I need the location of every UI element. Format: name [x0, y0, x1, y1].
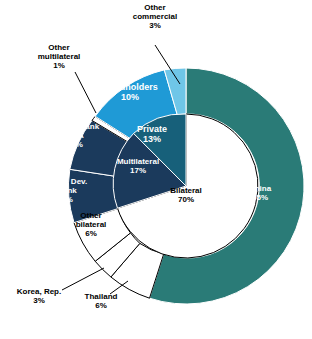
- label-private: Private 13%: [126, 124, 178, 144]
- label-multilateral: Multilateral 17%: [102, 158, 174, 176]
- pie-chart: Other commercial 3% Other multilateral 1…: [0, 0, 312, 339]
- label-other-multilateral: Other multilateral 1%: [26, 44, 92, 71]
- label-china: China 55%: [234, 185, 286, 203]
- label-korea: Korea, Rep. 3%: [6, 288, 72, 306]
- label-bilateral: Bilateral 70%: [156, 187, 216, 205]
- label-other-bilateral: Other bilateral 6%: [62, 212, 120, 239]
- label-thailand: Thailand 6%: [71, 293, 131, 311]
- label-asian-dev-bank: Asian Dev. Bank 8%: [32, 178, 102, 205]
- label-world-bank-ida: World Bank IDA 8%: [42, 123, 112, 150]
- label-bondholders: Bondholders 10%: [91, 82, 169, 102]
- label-other-commercial: Other commercial 3%: [120, 4, 190, 31]
- leader-line-korea: [62, 268, 104, 290]
